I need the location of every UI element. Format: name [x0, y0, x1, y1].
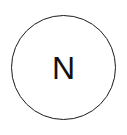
node-label: N — [52, 52, 75, 84]
circle-node: N — [11, 15, 116, 120]
